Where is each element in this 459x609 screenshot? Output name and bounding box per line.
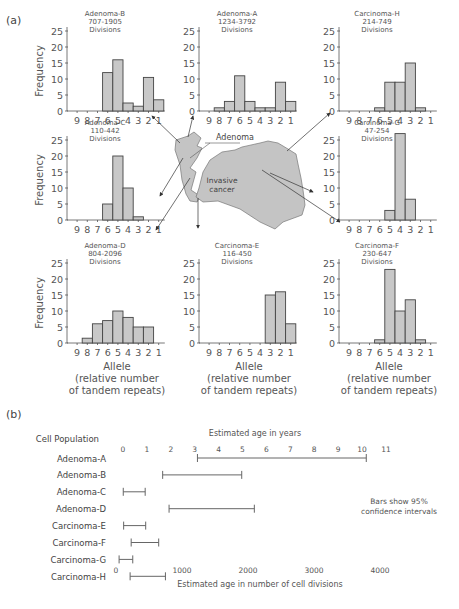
x-tick-label: 6 bbox=[237, 115, 243, 126]
histogram-title: Adenoma-D bbox=[84, 242, 125, 250]
row-label: Adenoma-A bbox=[57, 454, 106, 464]
histogram-bar bbox=[395, 134, 405, 220]
histogram-subtitle: Divisions bbox=[221, 258, 253, 266]
y-tick-label: 20 bbox=[323, 151, 335, 162]
histogram-carcinoma-f: Carcinoma-F230-647Divisions0510152025987… bbox=[323, 242, 437, 396]
y-tick-label: 10 bbox=[183, 74, 195, 85]
x-tick-label: 1000 bbox=[172, 566, 191, 575]
x-tick-label: 2 bbox=[417, 224, 423, 235]
x-tick-label: 1 bbox=[156, 347, 162, 358]
row-label: Carcinoma-G bbox=[50, 555, 106, 565]
figure: (a) Adenoma-B707-1905Divisions0510152025… bbox=[0, 0, 459, 609]
x-tick-label: 2 bbox=[417, 347, 423, 358]
panel-a-label: (a) bbox=[6, 14, 21, 27]
row-label: Adenoma-C bbox=[57, 487, 106, 497]
histogram-bar bbox=[133, 217, 143, 220]
x-tick-label: 7 bbox=[226, 115, 232, 126]
histogram-adenoma-c: Adenoma-C110-442Divisions051015202598765… bbox=[34, 119, 165, 235]
histogram-carcinoma-g: Carcinoma-G47-254Divisions05101520259876… bbox=[323, 119, 437, 235]
histogram-subtitle: Divisions bbox=[221, 26, 253, 34]
histogram-title: Adenoma-B bbox=[85, 10, 126, 18]
histogram-bar bbox=[92, 324, 102, 343]
y-tick-label: 15 bbox=[323, 290, 335, 301]
histogram-bar bbox=[265, 108, 275, 111]
histogram-bar bbox=[275, 82, 285, 111]
histogram-bar bbox=[123, 103, 133, 111]
interval-bar bbox=[130, 572, 165, 580]
y-tick-label: 20 bbox=[323, 42, 335, 53]
histogram-bar bbox=[103, 321, 113, 343]
y-tick-label: 10 bbox=[323, 183, 335, 194]
x-tick-label: 3 bbox=[135, 224, 141, 235]
interval-bar bbox=[163, 471, 242, 479]
histogram-subtitle: 116-450 bbox=[222, 250, 251, 258]
y-tick-label: 10 bbox=[183, 306, 195, 317]
x-tick-label: 4 bbox=[397, 224, 403, 235]
histogram-bar bbox=[375, 108, 385, 111]
y-tick-label: 20 bbox=[51, 42, 63, 53]
histogram-subtitle: Divisions bbox=[89, 26, 121, 34]
x-tick-label: 2 bbox=[145, 115, 151, 126]
x-tick-label: 9 bbox=[346, 224, 352, 235]
x-tick-label: 1 bbox=[428, 224, 434, 235]
y-axis-label: Cell Population bbox=[36, 434, 99, 444]
histogram-bar bbox=[235, 76, 245, 111]
arrow bbox=[160, 158, 183, 196]
histogram-bar bbox=[123, 317, 133, 343]
x-tick-label: 4 bbox=[257, 347, 263, 358]
x-tick-label: 4 bbox=[397, 347, 403, 358]
histogram-adenoma-a: Adenoma-A1234-3792Divisions0510152025987… bbox=[183, 10, 297, 126]
histogram-bar bbox=[415, 108, 425, 111]
x-tick-label: 9 bbox=[206, 347, 212, 358]
histogram-bar bbox=[214, 108, 224, 111]
x-tick-label: 9 bbox=[74, 347, 80, 358]
interval-bar bbox=[123, 488, 145, 496]
x-tick-label: 9 bbox=[74, 224, 80, 235]
histogram-bar bbox=[275, 292, 285, 343]
x-tick-label: 9 bbox=[346, 347, 352, 358]
y-axis-label: Frequency bbox=[34, 154, 45, 206]
y-tick-label: 5 bbox=[189, 322, 195, 333]
y-tick-label: 5 bbox=[329, 90, 335, 101]
top-tick-label: 7 bbox=[288, 445, 293, 454]
histogram-bar bbox=[286, 324, 296, 343]
x-tick-label: 5 bbox=[387, 224, 393, 235]
y-tick-label: 5 bbox=[329, 199, 335, 210]
age-interval-chart: Estimated age in years01234567891011Cell… bbox=[36, 429, 437, 589]
histogram-bar bbox=[123, 188, 133, 220]
x-axis-label: (relative number bbox=[75, 373, 160, 384]
histogram-subtitle: 804-2096 bbox=[88, 250, 122, 258]
row-label: Adenoma-D bbox=[56, 504, 106, 514]
top-tick-label: 1 bbox=[145, 445, 150, 454]
x-tick-label: 3 bbox=[407, 347, 413, 358]
histogram-subtitle: Divisions bbox=[361, 258, 393, 266]
x-tick-label: 0 bbox=[114, 566, 119, 575]
histogram-title: Carcinoma-G bbox=[354, 119, 400, 127]
histogram-bar bbox=[224, 101, 234, 111]
y-tick-label: 15 bbox=[323, 58, 335, 69]
y-tick-label: 5 bbox=[189, 90, 195, 101]
x-tick-label: 7 bbox=[226, 347, 232, 358]
x-tick-label: 6 bbox=[105, 224, 111, 235]
histogram-bar bbox=[395, 82, 405, 111]
histogram-subtitle: Divisions bbox=[361, 26, 393, 34]
histogram-bar bbox=[255, 108, 265, 111]
annotation: confidence intervals bbox=[361, 507, 437, 516]
x-tick-label: 3 bbox=[135, 115, 141, 126]
x-tick-label: 6 bbox=[377, 224, 383, 235]
x-axis-label: Estimated age in number of cell division… bbox=[177, 580, 342, 589]
y-tick-label: 15 bbox=[323, 167, 335, 178]
y-tick-label: 25 bbox=[323, 258, 335, 269]
x-tick-label: 3 bbox=[407, 115, 413, 126]
top-tick-label: 11 bbox=[381, 445, 391, 454]
y-tick-label: 25 bbox=[323, 26, 335, 37]
histogram-adenoma-b: Adenoma-B707-1905Divisions05101520259876… bbox=[34, 10, 165, 126]
histogram-subtitle: 214-749 bbox=[362, 18, 391, 26]
x-tick-label: 4000 bbox=[370, 566, 389, 575]
x-tick-label: 8 bbox=[216, 347, 222, 358]
y-tick-label: 0 bbox=[329, 215, 335, 226]
y-tick-label: 15 bbox=[51, 167, 63, 178]
x-tick-label: 8 bbox=[356, 347, 362, 358]
cancer-label: cancer bbox=[209, 185, 235, 194]
x-tick-label: 9 bbox=[74, 115, 80, 126]
